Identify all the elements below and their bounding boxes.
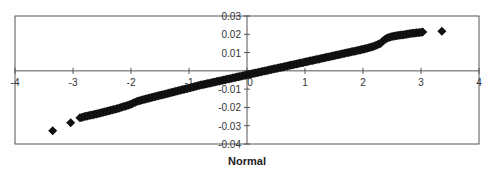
y-tick-label: -0.04 xyxy=(218,139,241,150)
x-tick-label: -4 xyxy=(11,77,20,88)
x-tick-label: -3 xyxy=(69,77,78,88)
x-tick-label: 1 xyxy=(302,77,308,88)
x-tick-label: -2 xyxy=(127,77,136,88)
y-tick-label: 0.03 xyxy=(222,11,242,22)
normal-probability-plot: -4-3-2-1012340.030.020.01-0.01-0.02-0.03… xyxy=(0,0,492,173)
x-tick-label: 2 xyxy=(360,77,366,88)
x-tick-label: 4 xyxy=(476,77,482,88)
x-axis-title: Normal xyxy=(228,155,266,167)
y-tick-label: 0.01 xyxy=(222,48,242,59)
y-tick-label: -0.01 xyxy=(218,84,241,95)
y-tick-label: -0.03 xyxy=(218,121,241,132)
y-tick-label: -0.02 xyxy=(218,102,241,113)
y-tick-label: 0.02 xyxy=(222,29,242,40)
x-tick-label: 3 xyxy=(418,77,424,88)
